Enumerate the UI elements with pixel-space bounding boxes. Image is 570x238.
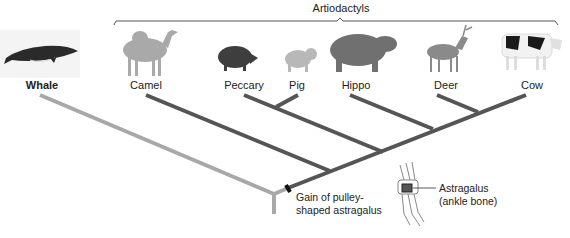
- ankle-skeleton-image: [398, 162, 424, 226]
- camel-branch: [146, 95, 330, 171]
- hippo-image: [330, 34, 397, 72]
- astragalus-annotation-line1: Astragalus: [439, 182, 497, 195]
- artiodactyl-backbone: [288, 95, 526, 188]
- deer-image: [427, 25, 472, 72]
- artiodactyls-bracket: [114, 18, 558, 25]
- camel-image: [123, 30, 178, 76]
- hippo-branch: [350, 95, 433, 129]
- astragalus-annotation-line2: (ankle bone): [439, 195, 497, 208]
- pig-branch: [276, 95, 298, 107]
- astragalus-annotation: Astragalus (ankle bone): [439, 182, 497, 208]
- gain-annotation: Gain of pulley- shaped astragalus: [296, 191, 382, 217]
- deer-branch: [437, 95, 478, 112]
- taxon-label-deer: Deer: [406, 79, 486, 91]
- taxon-label-camel: Camel: [106, 79, 186, 91]
- pig-image: [285, 48, 317, 72]
- cow-image: [502, 34, 562, 70]
- gain-annotation-line2: shaped astragalus: [296, 204, 382, 217]
- peccary-image: [218, 46, 258, 71]
- taxon-label-whale: Whale: [2, 79, 82, 91]
- root-to-artiodactyls: [274, 188, 288, 194]
- taxon-label-cow: Cow: [492, 79, 570, 91]
- gain-annotation-line1: Gain of pulley-: [296, 191, 382, 204]
- whale-branch: [40, 95, 274, 194]
- taxon-label-hippo: Hippo: [316, 79, 396, 91]
- whale-image: [0, 30, 80, 78]
